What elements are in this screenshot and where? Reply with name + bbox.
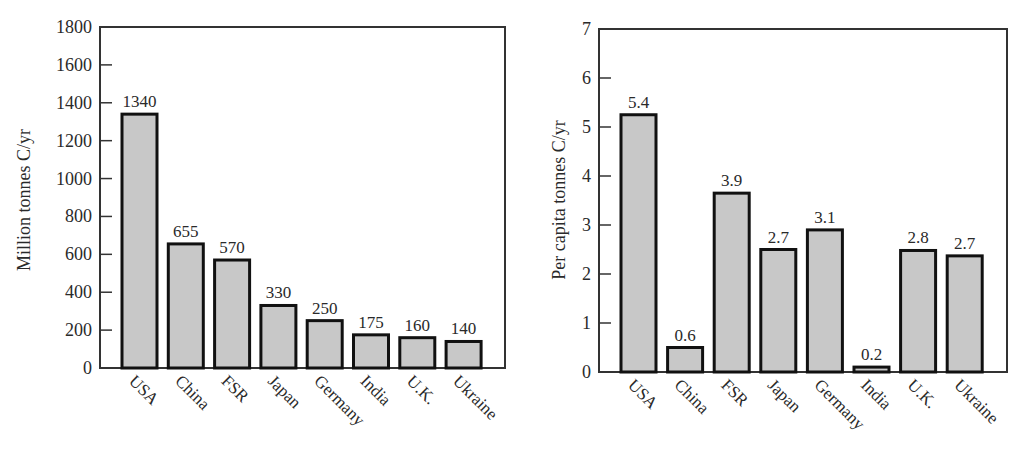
bar-india	[854, 367, 889, 372]
bar-fsr	[714, 193, 749, 372]
value-label: 140	[451, 319, 477, 338]
y-tick-label: 200	[65, 320, 92, 340]
y-tick-label: 0	[83, 358, 92, 378]
chart-1: 020040060080010001200140016001800Million…	[14, 17, 505, 430]
bar-uk	[400, 338, 435, 368]
category-label: FSR	[717, 375, 752, 410]
y-tick-label: 2	[582, 264, 591, 284]
y-tick-label: 6	[582, 68, 591, 88]
y-tick-label: 800	[65, 206, 92, 226]
category-label: Germany	[811, 375, 870, 434]
category-label: USA	[624, 375, 662, 413]
value-label: 0.2	[861, 345, 882, 364]
value-label: 3.9	[721, 171, 742, 190]
category-label: China	[171, 371, 213, 413]
value-label: 570	[219, 238, 245, 257]
value-label: 2.8	[907, 228, 928, 247]
y-tick-label: 0	[582, 362, 591, 382]
value-label: 2.7	[768, 228, 790, 247]
y-tick-label: 600	[65, 244, 92, 264]
value-label: 160	[405, 316, 431, 335]
category-label: Ukraine	[449, 371, 501, 423]
bar-fsr	[215, 260, 250, 368]
chart-2: 01234567Per capita tonnes C/yr5.4USA0.6C…	[549, 19, 1007, 434]
value-label: 2.7	[954, 234, 976, 253]
value-label: 655	[173, 222, 199, 241]
y-axis-title: Million tonnes C/yr	[14, 129, 34, 271]
y-tick-label: 400	[65, 282, 92, 302]
bar-usa	[122, 114, 157, 368]
bar-usa	[621, 115, 656, 372]
category-label: FSR	[218, 371, 253, 406]
value-label: 175	[358, 313, 384, 332]
y-tick-label: 1200	[56, 131, 92, 151]
value-label: 1340	[123, 92, 157, 111]
category-label: India	[357, 371, 395, 409]
category-label: U.K.	[904, 375, 941, 412]
category-label: Japan	[264, 371, 305, 412]
bar-india	[354, 335, 389, 368]
value-label: 250	[312, 299, 338, 318]
bar-charts: 020040060080010001200140016001800Million…	[0, 0, 1019, 462]
category-label: Ukraine	[950, 375, 1002, 427]
y-tick-label: 1600	[56, 55, 92, 75]
bar-germany	[307, 321, 342, 368]
bar-ukraine	[446, 341, 481, 368]
category-label: China	[671, 375, 713, 417]
category-label: India	[857, 375, 895, 413]
bar-japan	[761, 250, 796, 373]
bar-japan	[261, 305, 296, 368]
plot-frame	[100, 27, 505, 368]
category-label: Japan	[764, 375, 805, 416]
category-label: U.K.	[403, 371, 440, 408]
y-tick-label: 7	[582, 19, 591, 39]
y-tick-label: 3	[582, 215, 591, 235]
value-label: 0.6	[674, 326, 695, 345]
y-tick-label: 1400	[56, 93, 92, 113]
y-axis-title: Per capita tonnes C/yr	[549, 120, 569, 279]
y-tick-label: 5	[582, 117, 591, 137]
y-tick-label: 1000	[56, 169, 92, 189]
bar-germany	[807, 230, 842, 372]
category-label: USA	[125, 371, 163, 409]
value-label: 5.4	[628, 93, 650, 112]
y-tick-label: 4	[582, 166, 591, 186]
bar-ukraine	[947, 256, 982, 372]
y-tick-label: 1	[582, 313, 591, 333]
bar-china	[168, 244, 203, 368]
bar-uk	[901, 250, 936, 372]
value-label: 3.1	[814, 208, 835, 227]
bar-china	[668, 348, 703, 373]
y-tick-label: 1800	[56, 17, 92, 37]
value-label: 330	[266, 283, 292, 302]
